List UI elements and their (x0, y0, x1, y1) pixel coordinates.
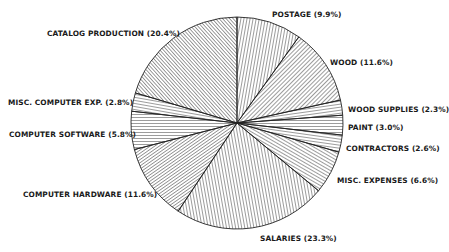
label-wood-supplies: WOOD SUPPLIES (2.3%) (348, 105, 449, 114)
label-computer-software: COMPUTER SOFTWARE (5.8%) (9, 130, 136, 139)
label-misc-computer-exp: MISC. COMPUTER EXP. (2.8%) (8, 98, 133, 107)
label-computer-hardware: COMPUTER HARDWARE (11.6%) (23, 190, 157, 199)
pie-slices (131, 17, 343, 229)
label-salaries: SALARIES (23.3%) (260, 234, 337, 243)
label-catalog-production: CATALOG PRODUCTION (20.4%) (47, 29, 180, 38)
label-postage: POSTAGE (9.9%) (272, 10, 342, 19)
label-wood: WOOD (11.6%) (330, 58, 393, 67)
label-contractors: CONTRACTORS (2.6%) (346, 144, 440, 153)
label-paint: PAINT (3.0%) (348, 123, 403, 132)
label-misc-expenses: MISC. EXPENSES (6.6%) (337, 176, 438, 185)
